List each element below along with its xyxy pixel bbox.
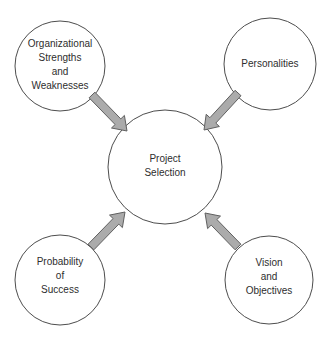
label-line: Success	[37, 283, 84, 297]
label-line: Weaknesses	[28, 79, 92, 93]
label-line: Vision	[246, 256, 293, 270]
arrow-vision-to-project-selection	[205, 213, 241, 250]
label-line: of	[37, 269, 84, 283]
label-line: Objectives	[246, 284, 293, 298]
node-label-vision-and-objectives: Vision and Objectives	[246, 256, 293, 298]
diagram-canvas: Organizational Strengths and Weaknesses …	[0, 0, 326, 345]
label-line: and	[28, 65, 92, 79]
label-line: Personalities	[241, 57, 298, 71]
label-line: Probability	[37, 255, 84, 269]
arrow-personalities-to-project-selection	[204, 90, 241, 130]
label-line: and	[246, 270, 293, 284]
label-line: Strengths	[28, 51, 92, 65]
node-label-project-selection: Project Selection	[144, 152, 185, 180]
node-label-probability-of-success: Probability of Success	[37, 255, 84, 297]
arrow-probability-to-project-selection	[88, 212, 125, 250]
arrow-org-strengths-to-project-selection	[89, 92, 127, 131]
node-label-personalities: Personalities	[241, 57, 298, 71]
label-line: Project	[144, 152, 185, 166]
label-line: Selection	[144, 166, 185, 180]
node-label-organizational-strengths-weaknesses: Organizational Strengths and Weaknesses	[28, 37, 92, 93]
label-line: Organizational	[28, 37, 92, 51]
